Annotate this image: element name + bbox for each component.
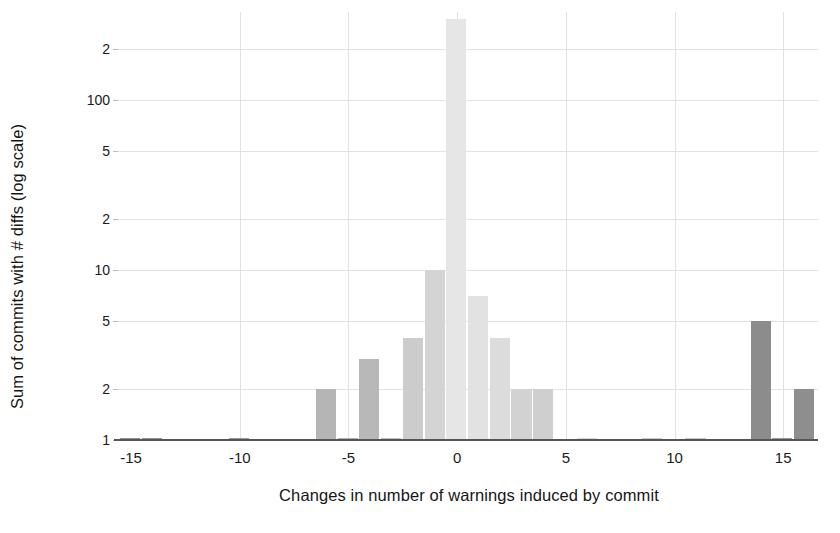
y-tick-mark <box>113 100 118 101</box>
y-tick-label: 5 <box>102 313 110 329</box>
x-tick-label: -5 <box>342 449 355 466</box>
gridline-x <box>348 12 349 440</box>
gridline-x <box>675 12 676 440</box>
gridline-y <box>118 100 818 101</box>
x-tick-label: 5 <box>562 449 570 466</box>
y-tick-mark <box>113 49 118 50</box>
gridline-x <box>783 12 784 440</box>
x-tick-label: -15 <box>120 449 142 466</box>
y-axis-title: Sum of commits with # diffs (log scale) <box>0 0 34 533</box>
bar <box>751 321 771 440</box>
gridline-y <box>118 49 818 50</box>
x-tick-label: -10 <box>229 449 251 466</box>
gridline-x <box>240 12 241 440</box>
y-tick-mark <box>113 321 118 322</box>
y-tick-label: 2 <box>102 211 110 227</box>
bar <box>359 359 379 440</box>
y-tick-label: 2 <box>102 381 110 397</box>
y-tick-label: 1 <box>102 432 110 448</box>
gridline-x <box>566 12 567 440</box>
histogram-figure: Sum of commits with # diffs (log scale) … <box>0 0 840 533</box>
bar <box>403 338 423 440</box>
bar <box>446 19 466 440</box>
bar <box>794 389 814 440</box>
bar <box>490 338 510 440</box>
bar <box>316 389 336 440</box>
bar <box>468 296 488 440</box>
y-tick-label: 100 <box>87 92 110 108</box>
x-axis-line <box>114 439 818 441</box>
y-tick-label: 5 <box>102 143 110 159</box>
x-axis-title: Changes in number of warnings induced by… <box>118 486 820 505</box>
plot-area: 21005210521 -15-10-5051015 <box>118 12 818 440</box>
bar <box>425 270 445 440</box>
bar <box>511 389 531 440</box>
y-tick-mark <box>113 270 118 271</box>
gridline-y <box>118 270 818 271</box>
y-tick-mark <box>113 389 118 390</box>
bar <box>533 389 553 440</box>
y-tick-label: 2 <box>102 41 110 57</box>
gridline-y <box>118 219 818 220</box>
x-tick-label: 15 <box>775 449 792 466</box>
y-tick-label: 10 <box>94 262 110 278</box>
x-tick-label: 0 <box>453 449 461 466</box>
gridline-y <box>118 151 818 152</box>
y-tick-mark <box>113 219 118 220</box>
y-tick-mark <box>113 151 118 152</box>
x-tick-label: 10 <box>666 449 683 466</box>
